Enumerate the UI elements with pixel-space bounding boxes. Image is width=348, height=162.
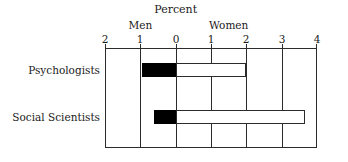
gridline-men-1	[140, 48, 141, 148]
bar-men-psychologists	[142, 63, 176, 77]
category-label-psychologists: Psychologists	[0, 64, 100, 76]
diverging-bar-chart: Percent Men Women 2 1 0 1 2 3 4 Psycholo…	[0, 0, 348, 162]
bar-men-social-scientists	[154, 110, 176, 124]
gridline-women-3	[282, 48, 283, 148]
group-label-women: Women	[209, 19, 248, 31]
category-label-social-scientists: Social Scientists	[0, 111, 100, 123]
chart-title: Percent	[154, 3, 197, 16]
bar-women-psychologists	[176, 63, 247, 77]
group-label-men: Men	[128, 19, 152, 31]
bar-women-social-scientists	[176, 110, 305, 124]
tick-label-6: 4	[314, 33, 321, 45]
